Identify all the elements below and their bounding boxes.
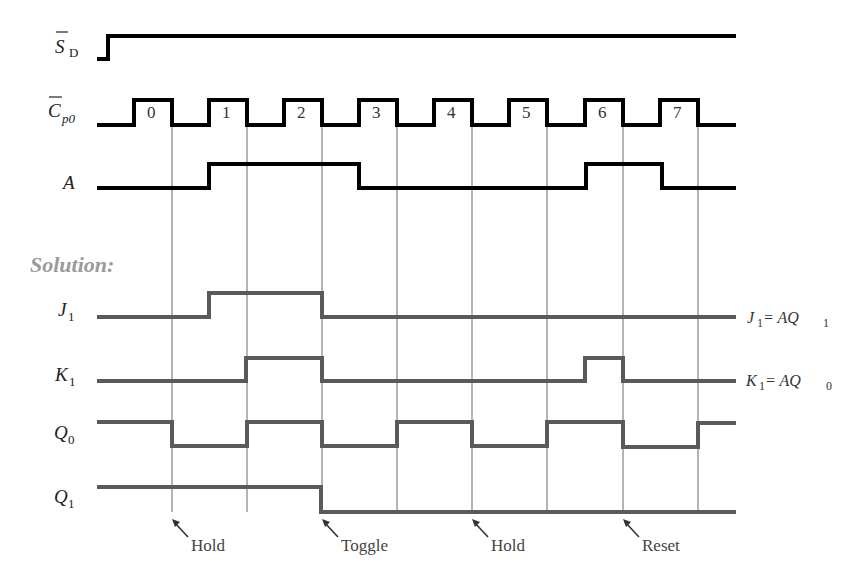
svg-text:Hold: Hold <box>191 536 226 555</box>
svg-text:p0: p0 <box>61 111 76 126</box>
svg-text:1: 1 <box>69 374 76 389</box>
svg-text:Q: Q <box>54 422 68 443</box>
svg-text:4: 4 <box>447 103 456 122</box>
svg-text:= AQ: = AQ <box>763 309 799 326</box>
svg-text:C: C <box>48 100 61 121</box>
signal-label-k1: K 1 <box>54 364 76 389</box>
svg-text:D: D <box>69 45 78 60</box>
svg-text:S: S <box>55 36 65 57</box>
svg-text:J: J <box>747 309 755 326</box>
svg-text:3: 3 <box>372 103 381 122</box>
svg-text:2: 2 <box>297 103 306 122</box>
timing-diagram: S D C p0 0 1 2 3 4 5 6 7 A Solution: J 1… <box>0 0 842 584</box>
signal-label-cp0: C p0 <box>48 97 76 126</box>
svg-text:1: 1 <box>68 309 75 324</box>
svg-text:1: 1 <box>222 103 231 122</box>
svg-text:Toggle: Toggle <box>341 536 388 555</box>
svg-text:K: K <box>745 372 758 389</box>
equation-j1: J 1 = AQ 1 <box>747 309 829 330</box>
clock-pulse-labels: 0 1 2 3 4 5 6 7 <box>147 103 682 122</box>
svg-text:1: 1 <box>823 316 829 330</box>
signal-a-waveform <box>97 164 736 188</box>
svg-text:Q: Q <box>54 486 68 507</box>
svg-text:J: J <box>58 299 68 320</box>
signal-label-a: A <box>61 172 75 193</box>
signal-sd-waveform <box>97 36 736 59</box>
annotation-toggle: Toggle <box>322 519 388 555</box>
signal-label-sd: S D <box>55 32 78 60</box>
svg-text:0: 0 <box>147 103 156 122</box>
svg-text:7: 7 <box>673 103 682 122</box>
signal-cp0-waveform <box>97 100 736 125</box>
annotation-hold-1: Hold <box>172 519 226 555</box>
svg-text:0: 0 <box>826 379 832 393</box>
annotation-reset: Reset <box>623 519 680 555</box>
annotation-hold-2: Hold <box>472 519 526 555</box>
svg-text:5: 5 <box>522 103 531 122</box>
svg-text:K: K <box>54 364 69 385</box>
signal-label-q1: Q 1 <box>54 486 75 511</box>
signal-j1-waveform <box>97 293 736 317</box>
svg-text:6: 6 <box>598 103 607 122</box>
signal-k1-waveform <box>97 358 736 381</box>
svg-text:Hold: Hold <box>491 536 526 555</box>
signal-label-j1: J 1 <box>58 299 75 324</box>
svg-text:= AQ: = AQ <box>765 372 801 389</box>
solution-heading: Solution: <box>30 252 114 277</box>
signal-q1-waveform <box>97 487 736 512</box>
signal-label-q0: Q 0 <box>54 422 75 447</box>
svg-text:Reset: Reset <box>642 536 680 555</box>
signal-q0-waveform <box>97 422 736 447</box>
svg-text:1: 1 <box>68 496 75 511</box>
svg-text:0: 0 <box>68 432 75 447</box>
equation-k1: K 1 = AQ 0 <box>745 372 832 393</box>
